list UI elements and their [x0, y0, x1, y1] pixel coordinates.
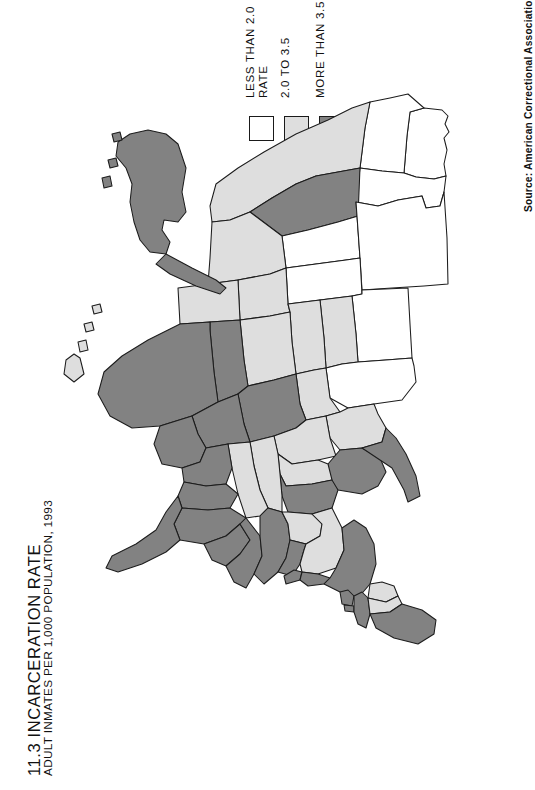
state-OR: [360, 94, 424, 173]
state-MN: [326, 358, 416, 408]
state-MO: [238, 374, 306, 442]
state-MI: [326, 448, 386, 494]
state-GA: [174, 508, 246, 544]
state-AZ: [208, 212, 286, 284]
state-HI-big-island: [64, 354, 84, 382]
legend-label-more-than-3point5: MORE THAN 3.5: [314, 1, 326, 98]
state-AK-panhandle: [156, 254, 226, 294]
state-WY: [286, 258, 362, 304]
state-NM: [178, 280, 240, 324]
state-NY: [324, 520, 376, 598]
state-CO: [238, 268, 290, 320]
state-NV: [250, 168, 360, 236]
state-AK-island-1: [108, 158, 118, 168]
state-IN: [278, 454, 332, 486]
state-MA: [354, 592, 370, 628]
state-HI-kauai: [92, 304, 102, 314]
state-KY: [250, 436, 282, 512]
state-AK: [116, 130, 186, 254]
state-TN: [228, 442, 268, 518]
state-FL: [106, 496, 182, 572]
state-CT: [340, 590, 354, 606]
state-AK-island-2: [102, 176, 112, 188]
state-LA: [154, 416, 206, 468]
source-note: Source: American Correctional Associatio…: [524, 0, 534, 212]
state-MT: [356, 192, 448, 290]
state-WV: [282, 512, 322, 544]
state-NE: [288, 300, 326, 374]
state-HI-oahu: [84, 322, 94, 332]
state-OK: [210, 320, 248, 402]
state-MI-up: [362, 428, 420, 502]
state-HI-maui: [78, 340, 88, 352]
us-map-svg: [58, 72, 478, 732]
state-TX: [98, 322, 218, 428]
state-NC: [226, 518, 262, 588]
state-NH: [368, 596, 402, 614]
state-UT: [282, 202, 360, 268]
legend-label-2-to-3point5: 2.0 TO 3.5: [279, 37, 291, 98]
legend-swatch-light-gray: [284, 116, 309, 141]
state-VA: [254, 508, 290, 584]
state-AL: [178, 482, 238, 510]
state-IL: [274, 416, 336, 464]
legend-title: RATE: [257, 65, 269, 98]
state-PA: [300, 508, 344, 574]
state-MD: [278, 540, 306, 576]
page-subtitle: ADULT INMATES PER 1,000 POPULATION, 1993: [43, 500, 55, 776]
state-WI: [326, 404, 386, 450]
state-DE: [284, 570, 302, 584]
state-OH: [280, 474, 338, 514]
legend-swatch-white: [249, 116, 274, 141]
state-VT: [368, 582, 398, 602]
state-WA: [404, 108, 449, 179]
state-AR: [192, 394, 250, 448]
legend-swatch-dark-gray: [319, 116, 344, 141]
legend-label-less-than-2: LESS THAN 2.0: [244, 6, 256, 98]
state-ME: [370, 604, 436, 644]
state-IA: [296, 368, 340, 420]
state-NJ: [300, 572, 330, 586]
state-SC: [204, 524, 250, 566]
state-SD: [320, 296, 358, 368]
map-legend: RATE LESS THAN 2.0 2.0 TO 3.5 MORE THAN …: [243, 6, 358, 146]
state-MS: [182, 444, 232, 486]
state-RI: [344, 605, 354, 612]
state-ND: [352, 288, 412, 362]
state-AK-island-3: [112, 132, 122, 142]
state-KS: [240, 312, 296, 386]
state-ID: [356, 168, 446, 208]
